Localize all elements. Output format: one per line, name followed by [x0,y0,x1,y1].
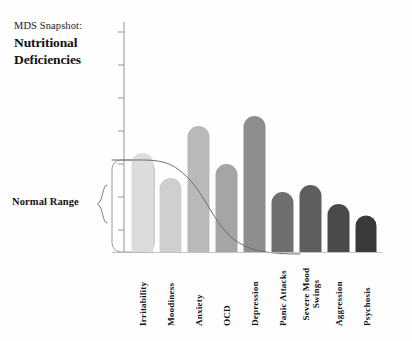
bar-severe-mood-swings[interactable] [300,185,322,252]
bar-psychosis[interactable] [356,216,377,253]
bar-depression[interactable] [244,116,266,252]
bar-series [132,116,377,252]
bar-moodiness[interactable] [160,178,182,252]
y-axis [118,22,124,252]
bar-ocd[interactable] [216,164,238,252]
y-axis-ticks [118,32,124,230]
bar-irritability[interactable] [132,153,154,252]
chart-root: MDS Snapshot: Nutritional Deficiencies N… [0,0,412,341]
bar-anxiety[interactable] [188,126,210,252]
plot-area [0,0,412,341]
bar-panic-attacks[interactable] [272,192,294,252]
bar-aggression[interactable] [328,204,350,252]
